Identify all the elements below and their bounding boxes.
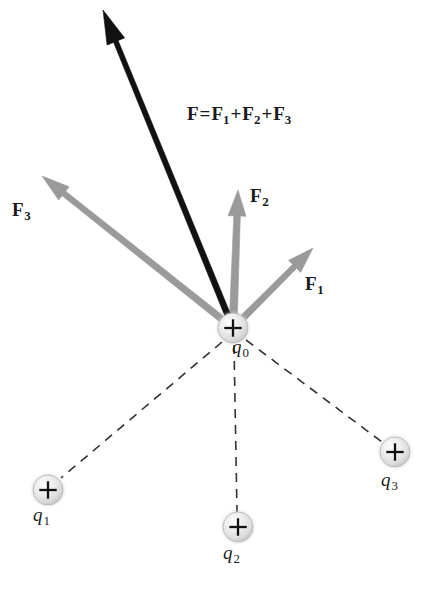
dashed-line-q0-q3 — [246, 340, 382, 442]
force-label-f2: F2 — [250, 186, 269, 205]
charge-label-q3: q3 — [381, 470, 398, 489]
resultant-equation: F=F1+F2+F3 — [187, 104, 291, 123]
equation-plus-1: + — [230, 103, 243, 124]
equation-lhs: F — [187, 103, 199, 124]
force-vector-group — [42, 10, 313, 331]
force-label-f1: F1 — [305, 274, 324, 293]
force-vector-f3-arrow — [42, 176, 235, 331]
charge-sphere-q1 — [30, 472, 67, 509]
equation-term3: F3 — [273, 103, 291, 124]
dashed-connector-group — [61, 340, 382, 512]
force-vector-f2-arrow — [228, 190, 246, 328]
charge-sphere-group — [30, 310, 414, 546]
equation-equals: = — [199, 103, 212, 124]
force-diagram-canvas — [0, 0, 431, 595]
charge-label-q2: q2 — [223, 543, 240, 562]
equation-term2: F2 — [242, 103, 260, 124]
charge-label-q1: q1 — [33, 505, 50, 524]
equation-term1: F1 — [211, 103, 229, 124]
force-label-f3: F3 — [12, 200, 31, 219]
charge-sphere-q2 — [220, 509, 257, 546]
dashed-line-q0-q2 — [234, 345, 237, 512]
charge-label-q0: q0 — [232, 337, 249, 356]
charge-sphere-q3 — [377, 434, 414, 471]
dashed-line-q0-q1 — [61, 342, 222, 478]
equation-plus-2: + — [260, 103, 273, 124]
physics-force-diagram: F=F1+F2+F3 F1 F2 F3 q0 q1 q2 q3 — [0, 0, 431, 595]
